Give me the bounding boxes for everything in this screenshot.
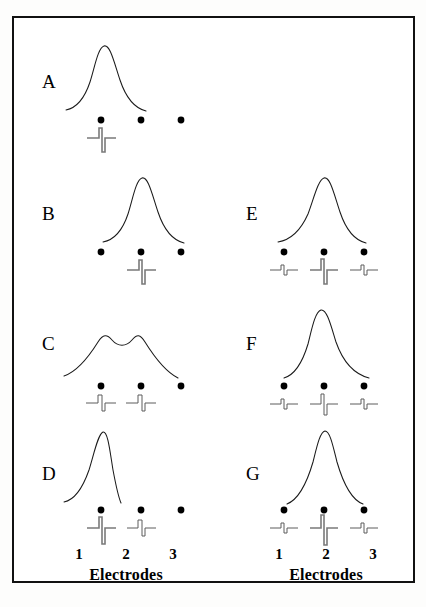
right-axis-numbers: 1 2 3: [266, 546, 386, 563]
panel-f-graphic: [232, 290, 412, 408]
electrode-dot-2: [138, 507, 145, 514]
spike-trace-electrode-2: [310, 259, 338, 284]
electrode-dot-3: [178, 383, 185, 390]
panel-e: E: [232, 156, 412, 281]
electrode-dot-3: [178, 117, 185, 124]
spike-trace-electrode-1: [86, 395, 116, 411]
electrode-dot-3: [361, 507, 368, 514]
left-axis-title: Electrodes: [66, 566, 186, 584]
potential-curve-f: [284, 310, 369, 378]
electrode-dot-2: [138, 383, 145, 390]
electrode-dot-1: [281, 507, 288, 514]
left-axis-number-2: 2: [113, 546, 139, 563]
right-axis: 1 2 3 Electrodes: [266, 546, 386, 584]
spike-trace-electrode-2: [126, 395, 156, 411]
electrode-dot-2: [138, 117, 145, 124]
spike-trace-electrode-1: [87, 517, 116, 544]
panel-c: C: [32, 290, 212, 408]
electrode-dot-1: [98, 117, 105, 124]
spike-trace-electrode-2: [310, 515, 338, 545]
right-axis-title: Electrodes: [266, 566, 386, 584]
left-axis-number-3: 3: [160, 546, 186, 563]
panel-b: B: [32, 156, 212, 281]
spike-trace-electrode-2: [127, 520, 156, 536]
potential-curve-e: [278, 178, 366, 243]
potential-curve-g: [287, 431, 363, 504]
electrode-dot-2: [138, 249, 145, 256]
potential-curve-c: [64, 336, 178, 378]
right-axis-number-1: 1: [266, 546, 292, 563]
panel-b-graphic: [32, 156, 212, 281]
spike-trace-electrode-2: [310, 394, 338, 415]
left-axis: 1 2 3 Electrodes: [66, 546, 186, 584]
panel-g-graphic: [232, 414, 412, 542]
panel-a: A: [32, 24, 212, 149]
electrode-dot-3: [178, 507, 185, 514]
electrode-dot-2: [321, 383, 328, 390]
spike-trace-electrode-2: [127, 260, 156, 284]
spike-trace-electrode-1: [270, 399, 298, 409]
figure-border: A B C D: [12, 16, 415, 583]
panel-d-graphic: [32, 414, 212, 542]
left-axis-number-1: 1: [66, 546, 92, 563]
right-axis-number-2: 2: [313, 546, 339, 563]
electrode-dot-1: [98, 507, 105, 514]
panel-f: F: [232, 290, 412, 408]
panel-c-graphic: [32, 290, 212, 408]
electrode-dot-1: [98, 249, 105, 256]
electrode-dot-3: [361, 249, 368, 256]
panel-d: D: [32, 414, 212, 542]
potential-curve-a: [66, 46, 146, 111]
panel-e-graphic: [232, 156, 412, 281]
electrode-dot-1: [281, 383, 288, 390]
electrode-dot-2: [321, 507, 328, 514]
panel-g: G: [232, 414, 412, 542]
panel-a-graphic: [32, 24, 212, 149]
spike-trace-electrode-3: [350, 523, 378, 533]
spike-trace-electrode-3: [350, 399, 378, 409]
electrode-dot-3: [178, 249, 185, 256]
electrode-dot-2: [321, 249, 328, 256]
right-axis-number-3: 3: [360, 546, 386, 563]
spike-trace-electrode-3: [350, 265, 378, 275]
potential-curve-d: [64, 432, 121, 503]
electrode-dot-1: [98, 383, 105, 390]
spike-trace-electrode-1: [270, 523, 298, 533]
left-axis-numbers: 1 2 3: [66, 546, 186, 563]
potential-curve-b: [103, 178, 184, 243]
electrode-dot-1: [281, 249, 288, 256]
electrode-dot-3: [361, 383, 368, 390]
spike-trace-electrode-1: [87, 128, 116, 152]
spike-trace-electrode-1: [270, 265, 298, 275]
